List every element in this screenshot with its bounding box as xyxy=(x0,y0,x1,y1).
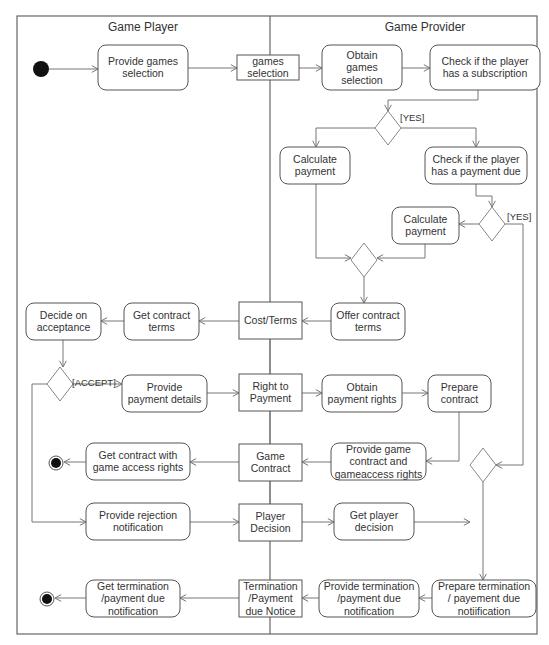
node-label-line: has a subscription xyxy=(443,67,528,79)
node-label-line: Get player xyxy=(350,509,399,521)
action-provide-game-contract: Provide gamecontract andgameaccess right… xyxy=(331,443,426,481)
action-calculate-payment-2: Calculatepayment xyxy=(392,207,459,244)
node-label-line: payment xyxy=(405,225,445,237)
node-label-line: /payment due xyxy=(337,592,401,604)
node-label-line: games xyxy=(346,61,378,73)
control-flow xyxy=(32,384,86,522)
node-label-line: Offer contract xyxy=(336,309,399,321)
node-label-line: contract and xyxy=(350,455,408,467)
action-obtain-games-selection: Obtaingamesselection xyxy=(322,45,402,90)
node-label-line: Provide rejection xyxy=(99,509,177,521)
action-provide-payment-details: Providepayment details xyxy=(122,375,207,412)
object-games-selection: gamesselection xyxy=(237,55,299,80)
decision-node-subscription xyxy=(375,111,401,145)
node-label-line: contract xyxy=(441,393,478,405)
object-game-contract: GameContract xyxy=(239,444,302,481)
node-label-line: notification xyxy=(108,605,158,617)
node-label-line: Right to xyxy=(252,380,288,392)
node-label-line: Provide games xyxy=(108,55,178,67)
node-label-line: notiification xyxy=(458,605,511,617)
node-label-line: Get contract xyxy=(133,309,190,321)
node-label-line: has a payment due xyxy=(431,165,520,177)
guard-accept: [ACCEPT] xyxy=(72,377,116,388)
node-label-line: Check if the player xyxy=(433,153,520,165)
control-flow xyxy=(316,184,351,258)
action-check-subscription: Check if the playerhas a subscription xyxy=(430,45,540,90)
lane-title-game-provider: Game Provider xyxy=(385,20,466,34)
node-label-line: acceptance xyxy=(37,321,91,333)
node-label-line: due Notice xyxy=(245,605,295,617)
action-provide-rejection-notification: Provide rejectionnotification xyxy=(86,503,190,540)
control-flow xyxy=(377,244,425,258)
node-label-line: Game xyxy=(256,450,285,462)
action-calculate-payment-1: Calculatepayment xyxy=(280,147,350,184)
control-flow xyxy=(496,224,523,465)
decision-node-accept xyxy=(47,367,73,401)
node-label-line: Obtain xyxy=(347,49,378,61)
decision-node-merge xyxy=(351,243,377,277)
node-label-line: Calculate xyxy=(404,213,448,225)
node-label-line: notification xyxy=(344,605,394,617)
object-cost-terms: Cost/Terms xyxy=(239,302,302,339)
node-label-line: Termination xyxy=(243,580,297,592)
activity-final-node xyxy=(40,592,54,606)
node-label-line: payment details xyxy=(128,393,202,405)
lane-title-game-player: Game Player xyxy=(108,20,178,34)
node-label-line: Contract xyxy=(251,462,291,474)
activity-final-node xyxy=(49,456,63,470)
action-get-contract-terms: Get contractterms xyxy=(124,303,199,340)
control-flow xyxy=(401,128,476,147)
node-label-line: Decide on xyxy=(40,309,87,321)
node-label-line: payment rights xyxy=(328,393,397,405)
control-flow xyxy=(316,128,375,147)
control-flow xyxy=(426,412,459,461)
node-label-line: Provide termination xyxy=(324,580,415,592)
node-label-line: Check if the player xyxy=(442,55,529,67)
node-label-line: Payment xyxy=(250,392,292,404)
node-label-line: selection xyxy=(341,74,383,86)
node-label-line: decision xyxy=(355,521,394,533)
action-decide-on-acceptance: Decide onacceptance xyxy=(26,303,101,340)
node-label-line: notification xyxy=(113,521,163,533)
node-label-line: Provide xyxy=(147,381,183,393)
node-label-line: Prepare termination xyxy=(438,580,530,592)
node-label-line: Player xyxy=(256,510,286,522)
guard-subscription-yes: [YES] xyxy=(400,112,424,123)
diagram-nodes: Provide gamesselectionObtaingamesselecti… xyxy=(26,45,540,617)
decision-node-payment-due xyxy=(479,207,505,241)
action-check-payment-due: Check if the playerhas a payment due xyxy=(425,147,527,184)
guard-payment-due-yes: [YES] xyxy=(507,211,531,222)
node-label-line: Calculate xyxy=(293,153,337,165)
action-get-player-decision: Get playerdecision xyxy=(334,503,414,540)
action-offer-contract-terms: Offer contractterms xyxy=(331,303,405,340)
node-label-line: game access rights xyxy=(93,461,183,473)
control-flow xyxy=(388,90,478,111)
action-provide-games-selection: Provide gamesselection xyxy=(98,45,188,90)
node-label-line: payment xyxy=(295,165,335,177)
node-label-line: terms xyxy=(148,321,174,333)
decision-node-player-decision xyxy=(470,448,496,482)
node-label-line: Get termination xyxy=(97,580,169,592)
action-prepare-termination: Prepare termination/ payement duenotiifi… xyxy=(432,580,536,618)
node-label-line: Prepare xyxy=(441,381,479,393)
initial-node xyxy=(33,61,49,77)
action-get-termination: Get termination/payment duenotification xyxy=(86,580,180,618)
action-prepare-contract: Preparecontract xyxy=(428,375,491,412)
action-obtain-payment-rights: Obtainpayment rights xyxy=(322,375,402,412)
node-label-line: / payement due xyxy=(448,592,521,604)
node-label-line: selection xyxy=(122,67,164,79)
object-termination-notice: Termination/Paymentdue Notice xyxy=(239,580,302,618)
object-player-decision: PlayerDecision xyxy=(239,504,302,541)
node-label-line: selection xyxy=(247,67,289,79)
node-label-line: Cost/Terms xyxy=(244,314,297,326)
activity-diagram: Game Player Game Provider Provide gamess… xyxy=(0,0,549,645)
node-label-line: Get contract with xyxy=(99,449,178,461)
node-label-line: Obtain xyxy=(347,381,378,393)
action-get-contract-access-rights: Get contract withgame access rights xyxy=(86,443,190,480)
node-label-line: /Payment xyxy=(248,592,292,604)
node-label-line: Decision xyxy=(250,522,290,534)
object-right-to-payment: Right toPayment xyxy=(239,374,302,411)
node-label-line: games xyxy=(252,55,284,67)
node-label-line: gameaccess rights xyxy=(335,468,423,480)
action-provide-termination: Provide termination/payment duenotificat… xyxy=(319,580,419,618)
